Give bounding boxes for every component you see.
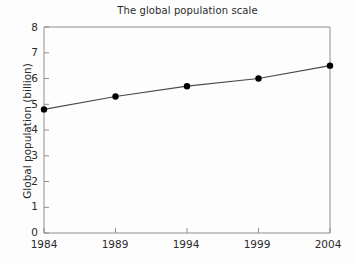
chart-figure: The global population scale Global popul…	[0, 0, 355, 264]
axis-frame	[44, 27, 330, 233]
y-axis-ticks	[44, 27, 49, 233]
data-point-2004	[327, 62, 333, 68]
x-axis-ticks	[44, 228, 330, 233]
data-point-1999	[255, 75, 261, 81]
data-point-1994	[184, 83, 190, 89]
plot-area	[0, 0, 355, 264]
data-series-markers	[41, 62, 333, 112]
data-point-1989	[112, 93, 118, 99]
data-point-1984	[41, 106, 47, 112]
